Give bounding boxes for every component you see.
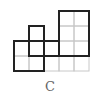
grid-cell xyxy=(14,56,29,71)
grid-cell xyxy=(44,41,59,56)
grid-cell xyxy=(29,56,44,71)
grid-cell xyxy=(74,41,89,56)
grid-cell xyxy=(59,56,74,71)
grid-cell xyxy=(59,26,74,41)
grid-figure xyxy=(0,0,93,80)
grid-cell xyxy=(14,41,29,56)
grid-cell xyxy=(59,41,74,56)
figure-label: C xyxy=(0,79,93,94)
grid-cell xyxy=(74,26,89,41)
grid-cell xyxy=(59,11,74,26)
grid-cell xyxy=(44,56,59,71)
grid-cell xyxy=(74,11,89,26)
grid-cell xyxy=(74,56,89,71)
grid-cell xyxy=(29,41,44,56)
grid-cell xyxy=(29,26,44,41)
